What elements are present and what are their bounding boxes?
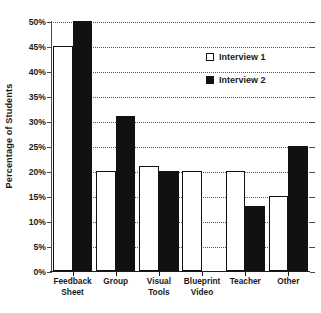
legend-label-interview-2: Interview 2 (219, 75, 266, 85)
y-tick-label: 45% (29, 42, 46, 52)
bar (182, 171, 202, 271)
x-tick-label-line: Sheet (46, 287, 100, 298)
bar (269, 196, 289, 271)
y-tick-label: 10% (29, 217, 46, 227)
y-tick-label: 40% (29, 67, 46, 77)
legend-swatch-interview-2 (206, 76, 214, 84)
y-tick-label: 25% (29, 142, 46, 152)
bar (116, 116, 136, 271)
x-tick-label-line: Other (262, 276, 316, 287)
legend: Interview 1 Interview 2 (206, 51, 266, 85)
y-tick-mark-right (310, 247, 315, 248)
y-tick-label: 50% (29, 17, 46, 27)
y-tick-mark-right (310, 22, 315, 23)
y-tick-label: 30% (29, 117, 46, 127)
y-tick-label: 0% (34, 267, 46, 277)
y-tick-mark-right (310, 272, 315, 273)
legend-label-interview-1: Interview 1 (219, 52, 266, 62)
bar (139, 166, 159, 271)
bar (53, 46, 73, 271)
y-tick-mark-right (310, 197, 315, 198)
bar (73, 21, 93, 271)
bar (159, 171, 179, 271)
y-axis-title: Percentage of Students (0, 0, 18, 272)
plot-area (51, 22, 310, 272)
bar (96, 171, 116, 271)
y-tick-mark-right (310, 47, 315, 48)
y-tick-label: 20% (29, 167, 46, 177)
y-tick-label: 15% (29, 192, 46, 202)
bar (245, 206, 265, 271)
y-tick-mark (47, 272, 52, 273)
legend-item: Interview 1 (206, 51, 266, 62)
y-axis-title-text: Percentage of Students (4, 84, 14, 189)
x-tick-label-line: Video (175, 287, 229, 298)
x-axis-tick-labels: FeedbackSheetGroupVisualToolsBlueprintVi… (51, 276, 310, 312)
y-tick-mark-right (310, 222, 315, 223)
y-tick-mark-right (310, 172, 315, 173)
y-tick-label: 35% (29, 92, 46, 102)
y-axis-tick-labels: 0%5%10%15%20%25%30%35%40%45%50% (18, 22, 48, 272)
y-tick-mark-right (310, 147, 315, 148)
bar-series-container (51, 22, 310, 271)
y-tick-label: 5% (34, 242, 46, 252)
y-tick-mark-right (310, 72, 315, 73)
y-tick-mark-right (310, 122, 315, 123)
bar (226, 171, 246, 271)
legend-swatch-interview-1 (206, 53, 214, 61)
legend-item: Interview 2 (206, 74, 266, 85)
bar-chart-figure: Percentage of Students 0%5%10%15%20%25%3… (0, 0, 321, 313)
bar (288, 146, 308, 271)
y-tick-mark-right (310, 97, 315, 98)
x-tick-label: Other (262, 276, 316, 287)
